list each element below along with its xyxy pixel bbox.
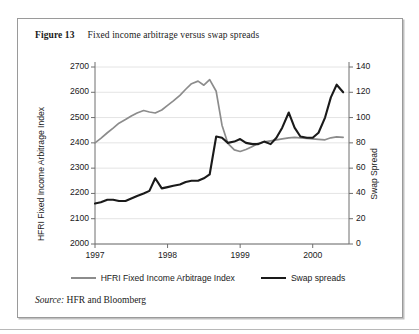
y-axis-left-tick-label: 2100: [55, 213, 89, 223]
y-axis-right-tick-label: 80: [356, 137, 386, 147]
y-axis-right-tick-label: 0: [356, 238, 386, 248]
y-axis-left-title: HFRI Fixed Income Arbitrage Index: [36, 94, 46, 254]
y-axis-right-tick-label: 140: [356, 61, 386, 71]
legend-item-label: HFRI Fixed Income Arbitrage Index: [101, 273, 235, 283]
legend-line-icon: [71, 277, 96, 279]
y-axis-right-tick-label: 60: [356, 162, 386, 172]
x-axis-tick-label: 1998: [148, 250, 188, 260]
x-axis-tick-label: 2000: [293, 250, 333, 260]
source-note: Source: HFR and Bloomberg: [35, 295, 146, 305]
y-axis-left-tick-label: 2700: [55, 61, 89, 71]
x-axis-tick-label: 1999: [220, 250, 260, 260]
y-axis-right-tick-label: 40: [356, 187, 386, 197]
y-axis-left-tick-label: 2000: [55, 238, 89, 248]
y-axis-left-tick-label: 2300: [55, 162, 89, 172]
legend-item: HFRI Fixed Income Arbitrage Index: [71, 273, 235, 283]
y-axis-right-tick-label: 120: [356, 86, 386, 96]
y-axis-right-tick-label: 100: [356, 112, 386, 122]
page-divider: [0, 329, 419, 330]
chart-legend: HFRI Fixed Income Arbitrage IndexSwap sp…: [58, 273, 358, 283]
legend-item-label: Swap spreads: [291, 273, 345, 283]
y-axis-left-tick-label: 2400: [55, 137, 89, 147]
x-axis-tick-label: 1997: [75, 250, 115, 260]
figure-card: Figure 13Fixed income arbitrage versus s…: [17, 18, 403, 318]
y-axis-right-tick-label: 20: [356, 213, 386, 223]
legend-line-icon: [261, 277, 286, 279]
source-label: Source:: [35, 295, 64, 305]
y-axis-left-tick-label: 2600: [55, 86, 89, 96]
legend-item: Swap spreads: [261, 273, 345, 283]
y-axis-left-tick-label: 2200: [55, 187, 89, 197]
y-axis-left-tick-label: 2500: [55, 112, 89, 122]
source-text: HFR and Bloomberg: [67, 295, 147, 305]
